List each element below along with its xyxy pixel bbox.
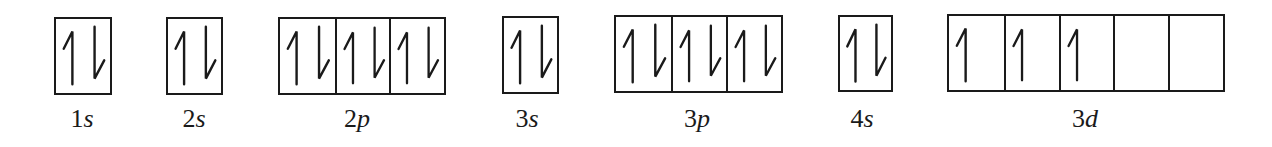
label-3s: 3s <box>515 104 538 134</box>
orbital-box-3d <box>947 14 1225 92</box>
spin-up-arrow-icon <box>1061 16 1114 90</box>
label-3s-number: 3 <box>515 104 528 133</box>
orbital-box-3p <box>614 15 783 93</box>
spin-up-arrow-icon <box>949 16 1004 90</box>
spin-up-arrow-icon <box>1006 16 1059 90</box>
orbital-cell-3p-2 <box>671 17 726 91</box>
orbital-cell-3p-3 <box>726 17 781 91</box>
orbital-cell-2p-3 <box>389 19 444 93</box>
label-3p: 3p <box>684 104 710 134</box>
orbital-cell-3d-1 <box>949 16 1004 90</box>
label-3d: 3d <box>1072 104 1098 134</box>
label-3p-number: 3 <box>684 104 697 133</box>
label-2p: 2p <box>344 104 370 134</box>
label-3d-letter: d <box>1085 104 1098 133</box>
label-4s-letter: s <box>863 104 873 133</box>
orbital-box-2s <box>166 17 223 95</box>
orbital-box-3s <box>502 16 559 94</box>
spin-down-arrow-icon <box>391 19 444 93</box>
label-1s-number: 1 <box>70 104 83 133</box>
spin-down-arrow-icon <box>56 19 110 93</box>
spin-down-arrow-icon <box>840 17 891 90</box>
spin-down-arrow-icon <box>673 17 726 91</box>
spin-down-arrow-icon <box>168 19 221 93</box>
label-4s: 4s <box>850 104 873 134</box>
spin-down-arrow-icon <box>504 18 557 92</box>
orbital-cell-3s-1 <box>504 18 557 92</box>
label-3p-letter: p <box>697 104 710 133</box>
label-3d-number: 3 <box>1072 104 1085 133</box>
orbital-cell-3d-3 <box>1059 16 1114 90</box>
label-2p-number: 2 <box>344 104 357 133</box>
label-2p-letter: p <box>357 104 370 133</box>
spin-down-arrow-icon <box>337 19 390 93</box>
label-1s-letter: s <box>83 104 93 133</box>
orbital-cell-3d-4 <box>1113 16 1168 90</box>
label-3s-letter: s <box>528 104 538 133</box>
label-2s: 2s <box>182 104 205 134</box>
orbital-cell-1s-1 <box>56 19 110 93</box>
orbital-box-4s <box>838 15 893 92</box>
orbital-cell-2p-1 <box>280 19 335 93</box>
label-1s: 1s <box>70 104 93 134</box>
label-4s-number: 4 <box>850 104 863 133</box>
orbital-box-1s <box>54 17 112 95</box>
orbital-box-2p <box>278 17 446 95</box>
orbital-cell-4s-1 <box>840 17 891 90</box>
spin-down-arrow-icon <box>728 17 781 91</box>
spin-down-arrow-icon <box>616 17 671 91</box>
orbital-cell-3d-2 <box>1004 16 1059 90</box>
label-2s-number: 2 <box>182 104 195 133</box>
spin-down-arrow-icon <box>280 19 335 93</box>
orbital-cell-2s-1 <box>168 19 221 93</box>
orbital-cell-2p-2 <box>335 19 390 93</box>
orbital-cell-3p-1 <box>616 17 671 91</box>
label-2s-letter: s <box>195 104 205 133</box>
orbital-cell-3d-5 <box>1168 16 1223 90</box>
